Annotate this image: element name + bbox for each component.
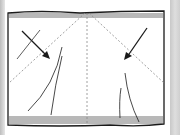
fabric-fold-diagram <box>0 0 180 135</box>
fabric-rectangle <box>8 11 164 126</box>
top-fringe <box>9 13 163 18</box>
bottom-fringe <box>9 116 163 124</box>
